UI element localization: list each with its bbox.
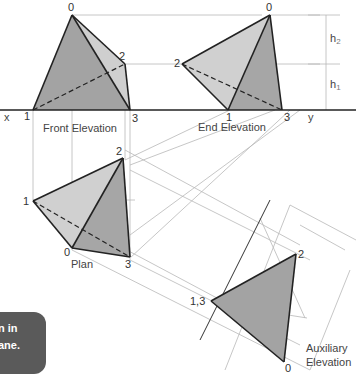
auxiliary-label-line1: Auxiliary bbox=[306, 342, 348, 354]
plan-point-1: 1 bbox=[23, 195, 29, 207]
axis-y-label: y bbox=[308, 111, 314, 123]
plan-point-3: 3 bbox=[125, 258, 131, 270]
ee-point-3: 3 bbox=[284, 111, 290, 123]
fe-point-1: 1 bbox=[24, 110, 30, 122]
aux-point-2: 2 bbox=[298, 248, 304, 260]
fe-point-0: 0 bbox=[68, 1, 74, 13]
fe-point-3: 3 bbox=[132, 112, 138, 124]
ee-point-0: 0 bbox=[266, 1, 272, 13]
plan-point-2: 2 bbox=[116, 145, 122, 157]
front-elevation-shape bbox=[33, 15, 130, 110]
auxiliary-label-line2: Elevation bbox=[306, 356, 351, 368]
callout-box: n in ane. bbox=[0, 312, 46, 374]
dim-h2: h2 bbox=[330, 32, 341, 46]
callout-line1: n in bbox=[0, 320, 46, 337]
aux-point-0: 0 bbox=[285, 362, 291, 372]
front-elevation-label: Front Elevation bbox=[43, 122, 117, 134]
plan-label: Plan bbox=[71, 258, 93, 270]
callout-line2: ane. bbox=[0, 337, 46, 354]
plan-point-0: 0 bbox=[64, 246, 70, 258]
dim-h1: h1 bbox=[330, 78, 341, 92]
ee-point-2: 2 bbox=[174, 57, 180, 69]
end-elevation-label: End Elevation bbox=[198, 121, 266, 133]
plan-shape bbox=[33, 158, 130, 257]
auxiliary-elevation-shape bbox=[200, 200, 296, 362]
fe-point-2: 2 bbox=[119, 50, 125, 62]
end-elevation-shape bbox=[182, 15, 282, 110]
aux-point-13: 1,3 bbox=[190, 295, 205, 307]
axis-x-label: x bbox=[4, 111, 10, 123]
